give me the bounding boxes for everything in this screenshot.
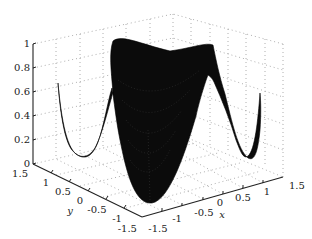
y-tick-0.5: 0.5 — [55, 186, 71, 197]
x-axis-label: x — [219, 209, 225, 220]
y-tick-1: 1 — [43, 177, 49, 188]
x-tick-neg0.5: -0.5 — [194, 207, 213, 218]
surface-plot: 0 0.2 0.4 0.6 0.8 1 1.5 1 0.5 0 -0.5 -1 … — [0, 0, 312, 239]
x-tick-labels: -1.5 -1 -0.5 0 0.5 1 1.5 x — [148, 180, 305, 234]
z-tick-0.6: 0.6 — [14, 86, 30, 97]
x-tick-1.5: 1.5 — [289, 180, 305, 191]
z-tick-0.2: 0.2 — [14, 134, 30, 145]
x-tick-0: 0 — [217, 197, 223, 208]
y-tick-0: 0 — [77, 195, 83, 206]
y-tick-labels: 1.5 1 0.5 0 -0.5 -1 -1.5 y — [12, 168, 137, 234]
z-tick-labels: 0 0.2 0.4 0.6 0.8 1 — [14, 38, 30, 169]
x-tick-neg1.5: -1.5 — [148, 223, 167, 234]
y-tick-neg0.5: -0.5 — [87, 204, 106, 215]
x-tick-0.5: 0.5 — [235, 192, 251, 203]
z-tick-0.4: 0.4 — [14, 110, 30, 121]
z-tick-1: 1 — [24, 38, 30, 49]
y-axis-label: y — [66, 205, 73, 216]
x-tick-neg1: -1 — [172, 213, 182, 224]
x-tick-1: 1 — [264, 186, 270, 197]
y-tick-1.5: 1.5 — [12, 168, 28, 179]
y-tick-neg1.5: -1.5 — [118, 223, 137, 234]
z-tick-0.8: 0.8 — [14, 62, 30, 73]
surface — [58, 39, 261, 203]
